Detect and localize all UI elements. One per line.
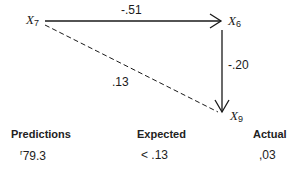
value-prediction: r79.3 <box>20 148 46 163</box>
header-predictions: Predictions <box>11 128 71 140</box>
node-x6-sub: 6 <box>236 19 241 29</box>
node-x7-base: X <box>26 12 34 27</box>
header-actual: Actual <box>253 128 287 140</box>
diagram-lines <box>0 0 290 170</box>
edge-x7-x9 <box>45 25 218 112</box>
prediction-value: 79.3 <box>23 149 46 163</box>
node-x9-sub: 9 <box>238 114 243 124</box>
path-diagram: X7 X6 X9 -.51 -.20 .13 Predictions Expec… <box>0 0 290 170</box>
header-expected: Expected <box>137 128 186 140</box>
node-x9: X9 <box>230 108 243 124</box>
node-x7: X7 <box>26 12 39 28</box>
value-expected: < .13 <box>141 148 168 162</box>
node-x6-base: X <box>228 13 236 28</box>
node-x9-base: X <box>230 108 238 123</box>
node-x7-sub: 7 <box>34 18 39 28</box>
coef-x6-x9: -.20 <box>228 58 249 72</box>
coef-x7-x6: -.51 <box>121 3 142 17</box>
node-x6: X6 <box>228 13 241 29</box>
value-actual: ,03 <box>259 148 276 162</box>
coef-x7-x9: .13 <box>112 75 129 89</box>
